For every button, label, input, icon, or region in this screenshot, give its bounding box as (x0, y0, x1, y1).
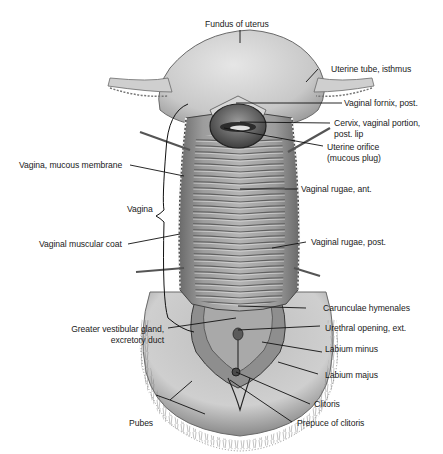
label-cervix-line1: Cervix, vaginal portion, (334, 118, 420, 128)
label-fundus-of-uterus: Fundus of uterus (205, 19, 269, 30)
label-orifice-line2: (mucous plug) (327, 153, 381, 163)
label-clitoris: Clitoris (314, 399, 340, 410)
label-carunculae-hymenales: Carunculae hymenales (323, 303, 410, 314)
label-greater-vestibular-gland: Greater vestibular gland, excretory duct (36, 324, 164, 345)
label-urethral-opening: Urethral opening, ext. (325, 323, 406, 334)
label-labium-minus: Labium minus (325, 344, 378, 355)
label-vaginal-rugae-post: Vaginal rugae, post. (311, 237, 386, 248)
label-vagina: Vagina (127, 204, 153, 215)
label-cervix-vaginal-portion: Cervix, vaginal portion, post. lip (334, 118, 420, 139)
label-labium-majus: Labium majus (325, 370, 378, 381)
label-cervix-line2: post. lip (334, 129, 363, 139)
label-gland-line1: Greater vestibular gland, (71, 324, 164, 334)
label-vaginal-muscular-coat: Vaginal muscular coat (39, 239, 122, 250)
label-vaginal-rugae-ant: Vaginal rugae, ant. (301, 184, 372, 195)
label-vagina-mucous-membrane: Vagina, mucous membrane (19, 160, 122, 171)
label-vaginal-fornix: Vaginal fornix, post. (344, 98, 418, 109)
label-uterine-tube-isthmus: Uterine tube, isthmus (331, 64, 411, 75)
label-prepuce-of-clitoris: Prepuce of clitoris (297, 418, 364, 429)
label-orifice-line1: Uterine orifice (327, 142, 379, 152)
label-gland-line2: excretory duct (111, 335, 164, 345)
label-pubes: Pubes (129, 418, 153, 429)
label-uterine-orifice: Uterine orifice (mucous plug) (327, 142, 381, 163)
